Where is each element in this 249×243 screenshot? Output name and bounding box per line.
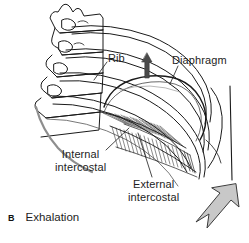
caption-text: Exhalation [26,211,80,223]
label-internal-line1: Internal [55,148,106,161]
label-diaphragm: Diaphragm [172,54,227,67]
panel-letter: B [8,213,15,223]
label-external-line2: intercostal [128,191,179,204]
label-internal-line2: intercostal [55,161,106,174]
anatomy-illustration [0,0,249,243]
exhalation-figure: Rib Diaphragm Internal intercostal Exter… [0,0,249,243]
label-rib: Rib [108,52,125,65]
label-internal-intercostal: Internal intercostal [55,148,106,173]
label-external-line1: External [128,178,179,191]
figure-caption: B Exhalation [8,211,79,223]
label-external-intercostal: External intercostal [128,178,179,203]
